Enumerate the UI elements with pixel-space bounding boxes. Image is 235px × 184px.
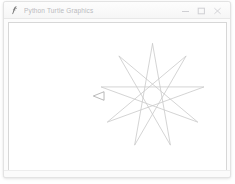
window-title: Python Turtle Graphics	[24, 6, 178, 15]
minimize-button[interactable]	[178, 3, 194, 18]
turtle-cursor	[93, 92, 104, 101]
maximize-icon	[197, 7, 206, 15]
star-polygon-path	[101, 44, 204, 145]
desktop-background: Python Turtle Graphics	[0, 0, 235, 184]
turtle-arrow-icon	[93, 92, 104, 101]
turtle-drawing-canvas[interactable]	[9, 23, 226, 170]
canvas-frame	[8, 22, 227, 171]
window-controls	[178, 2, 226, 18]
window-titlebar[interactable]: Python Turtle Graphics	[4, 2, 230, 19]
maximize-button[interactable]	[194, 3, 210, 18]
turtle-graphics-window: Python Turtle Graphics	[3, 1, 231, 178]
minimize-icon	[181, 7, 190, 15]
close-icon	[213, 7, 222, 15]
close-button[interactable]	[210, 3, 226, 18]
python-feather-icon	[11, 6, 20, 15]
window-footer	[4, 170, 230, 177]
